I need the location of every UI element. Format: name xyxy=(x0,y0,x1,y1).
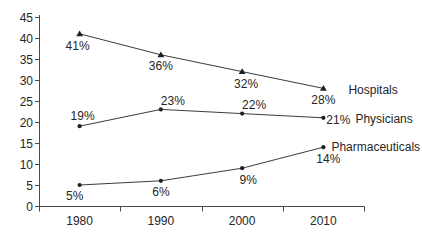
data-label: 32% xyxy=(234,77,258,91)
series-name-label: Pharmaceuticals xyxy=(331,140,420,154)
y-tick-label: 35 xyxy=(20,53,34,67)
y-tick-label: 40 xyxy=(20,32,34,46)
y-tick-label: 20 xyxy=(20,116,34,130)
series-line xyxy=(80,34,324,89)
dot-marker xyxy=(78,124,82,128)
dot-marker xyxy=(321,145,325,149)
y-tick-label: 45 xyxy=(20,11,34,25)
y-tick-label: 10 xyxy=(20,158,34,172)
data-label: 21% xyxy=(326,113,350,127)
data-label: 5% xyxy=(66,189,84,203)
dot-marker xyxy=(240,112,244,116)
y-tick-label: 0 xyxy=(26,200,33,214)
dot-marker xyxy=(78,183,82,187)
data-label: 23% xyxy=(161,94,185,108)
data-label: 41% xyxy=(66,39,90,53)
series-line xyxy=(80,109,324,126)
series-hospitals: 41%36%32%28%Hospitals xyxy=(66,30,398,107)
y-tick-label: 30 xyxy=(20,74,34,88)
dot-marker xyxy=(240,166,244,170)
series-name-label: Physicians xyxy=(355,112,412,126)
x-axis-ticks: 1980199020002010 xyxy=(40,207,365,229)
x-tick-label: 1990 xyxy=(148,214,175,228)
data-label: 22% xyxy=(242,98,266,112)
y-tick-label: 5 xyxy=(26,179,33,193)
dot-marker xyxy=(159,179,163,183)
data-label: 36% xyxy=(149,59,173,73)
y-axis-ticks: 051015202530354045 xyxy=(20,11,40,214)
series-name-label: Hospitals xyxy=(348,83,397,97)
line-chart-canvas: 051015202530354045198019902000201041%36%… xyxy=(0,0,422,236)
y-tick-label: 15 xyxy=(20,137,34,151)
x-tick-label: 2010 xyxy=(310,214,337,228)
series-pharmaceuticals: 5%6%9%14%Pharmaceuticals xyxy=(66,140,420,203)
series-line xyxy=(80,147,324,185)
series-physicians: 19%23%22%21%Physicians xyxy=(71,94,413,128)
triangle-marker xyxy=(76,30,83,36)
dot-marker xyxy=(321,116,325,120)
data-label: 9% xyxy=(239,173,257,187)
data-label: 19% xyxy=(71,109,95,123)
data-label: 6% xyxy=(152,185,170,199)
data-label: 14% xyxy=(316,152,340,166)
x-tick-label: 1980 xyxy=(66,214,93,228)
x-tick-label: 2000 xyxy=(229,214,256,228)
line-chart: 051015202530354045198019902000201041%36%… xyxy=(0,0,422,236)
data-label: 28% xyxy=(311,93,335,107)
y-tick-label: 25 xyxy=(20,95,34,109)
